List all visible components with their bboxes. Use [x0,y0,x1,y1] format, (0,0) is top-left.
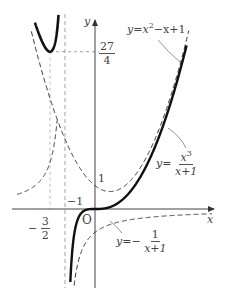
x-tick-neg-1: −1 [67,196,83,207]
main-curve-equation-label: y= x3x+1 [156,150,197,177]
frac-den: x+1 [144,242,166,254]
graph-figure: y x O 274 1 −1 − 32 y=x2−x+1 y= x3x+1 y=… [0,0,237,294]
leader-lines [110,40,186,233]
eq-sign: =− [122,235,140,248]
frac-num: 1 [151,229,160,242]
eq-rest: −x+1 [154,23,186,36]
minus-sign: − [28,222,37,235]
y-axis-label: y [84,16,90,27]
parabola-leader-line [158,40,180,62]
main-curve-leader-line [168,128,186,148]
frac-den: 2 [42,229,49,241]
y-tick-27-over-4: 274 [99,41,115,66]
eq-exponent: 3 [187,149,192,158]
guide-lines [50,14,99,288]
y-tick-1: 1 [98,173,105,184]
frac-num: 27 [99,41,115,54]
frac-den: 4 [104,54,111,66]
origin-label: O [82,214,92,226]
hyperbola-left-branch [17,120,57,194]
hyperbola-equation-label: y=− 1x+1 [116,229,167,254]
parabola-equation-label: y=x2−x+1 [127,22,185,35]
main-curve-left-branch [35,15,59,52]
x-tick-neg-3-over-2: − 32 [28,216,50,241]
x-axis-label: x [207,214,213,225]
frac-num: 3 [41,216,50,229]
frac-den: x+1 [175,165,197,177]
eq-sign: = [162,157,171,170]
